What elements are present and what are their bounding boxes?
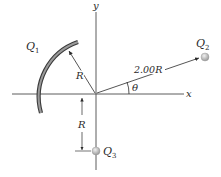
charge-diagram: x y Q1 R R 2.00R θ Q2 R Q3 bbox=[0, 0, 221, 177]
q1-arc bbox=[39, 42, 78, 113]
q3-charge bbox=[92, 147, 100, 155]
q2-label: Q2 bbox=[196, 37, 210, 52]
y-axis-label: y bbox=[92, 0, 99, 11]
q3-label: Q3 bbox=[103, 145, 117, 160]
radius-label-text: R bbox=[75, 70, 84, 81]
q3-distance-label: R bbox=[77, 119, 86, 130]
q1-label: Q1 bbox=[26, 40, 40, 55]
angle-arc bbox=[127, 82, 129, 94]
angle-label: θ bbox=[132, 82, 138, 93]
x-axis-label: x bbox=[186, 88, 192, 99]
q2-distance-label: 2.00R bbox=[133, 64, 162, 75]
q2-charge bbox=[201, 53, 209, 61]
